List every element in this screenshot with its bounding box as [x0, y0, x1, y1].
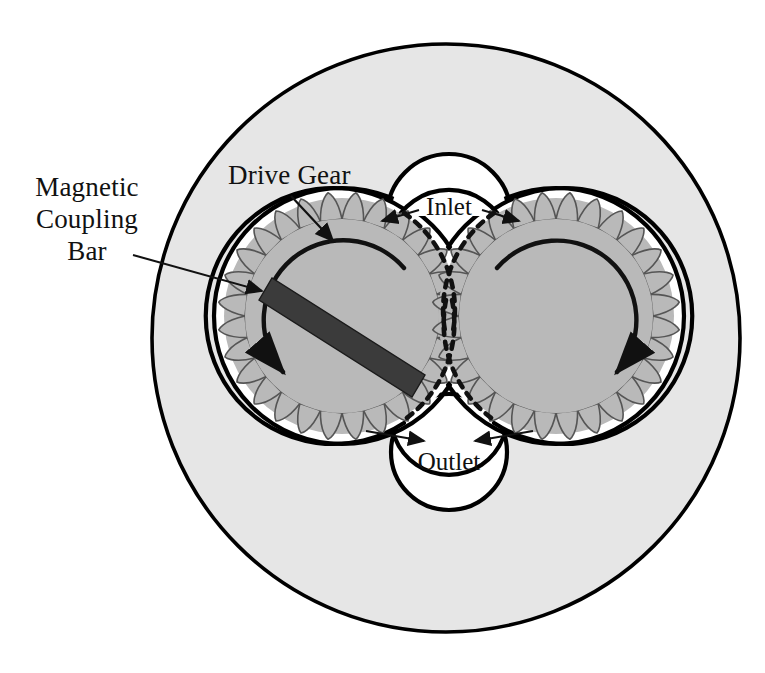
- drive-gear-label-text: Drive Gear: [228, 160, 351, 190]
- mc-bar-label-line1: Magnetic: [35, 172, 139, 202]
- mc-bar-label-line3: Bar: [67, 236, 107, 266]
- pump-diagram-root: Magnetic Coupling Bar Drive Gear Inlet O…: [0, 0, 765, 673]
- left-drive-gear: [219, 193, 465, 439]
- inlet-label-text: Inlet: [426, 193, 472, 220]
- outlet-label-text: Outlet: [418, 448, 481, 475]
- right-driven-gear: [433, 193, 679, 439]
- mc-bar-label-line2: Coupling: [36, 204, 138, 234]
- pump-cross-section-figure: Magnetic Coupling Bar Drive Gear Inlet O…: [0, 0, 765, 673]
